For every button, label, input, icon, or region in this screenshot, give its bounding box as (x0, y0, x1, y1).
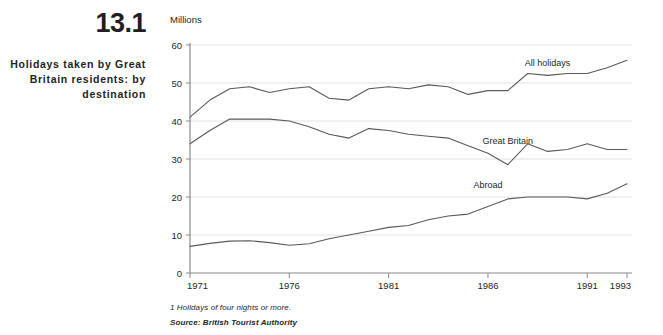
figure-page: 13.1 Holidays taken by Great Britain res… (0, 0, 663, 335)
series-line-abroad (190, 184, 627, 247)
x-axis-tick-label: 1981 (378, 280, 399, 291)
series-lines (190, 60, 627, 246)
x-axis-tick-label: 1976 (279, 280, 300, 291)
figure-number: 13.1 (95, 10, 146, 37)
figure-title-block: 13.1 Holidays taken by Great Britain res… (0, 0, 156, 335)
series-line-all-holidays (190, 60, 627, 117)
x-axis: 197119761981198619911993 (187, 273, 632, 291)
x-axis-tick-label: 1986 (477, 280, 498, 291)
series-label-all-holidays: All holidays (525, 58, 571, 68)
x-axis-tick-label: 1971 (187, 280, 208, 291)
y-axis-tick-label: 0 (177, 268, 182, 279)
y-axis-tick-label: 50 (171, 78, 182, 89)
series-label-abroad: Abroad (473, 180, 502, 190)
y-axis-tick-label: 30 (171, 154, 182, 165)
y-axis-tick-label: 40 (171, 116, 182, 127)
line-chart: 0102030405060 197119761981198619911993 A… (156, 0, 663, 300)
series-label-great-britain: Great Britain (483, 136, 534, 146)
footnote: 1 Holidays of four nights or more. (170, 303, 291, 312)
y-axis-tick-label: 20 (171, 192, 182, 203)
page-title: Holidays taken by Great Britain resident… (4, 57, 146, 102)
y-axis-tick-label: 60 (171, 40, 182, 51)
series-line-great-britain (190, 119, 627, 165)
x-axis-tick-label: 1991 (577, 280, 598, 291)
y-axis: 0102030405060 (171, 40, 190, 279)
x-axis-tick-label: 1993 (610, 280, 631, 291)
chart-container: Millions 0102030405060 19711976198119861… (156, 0, 663, 335)
source-note: Source: British Tourist Authority (170, 318, 297, 327)
y-axis-tick-label: 10 (171, 230, 182, 241)
